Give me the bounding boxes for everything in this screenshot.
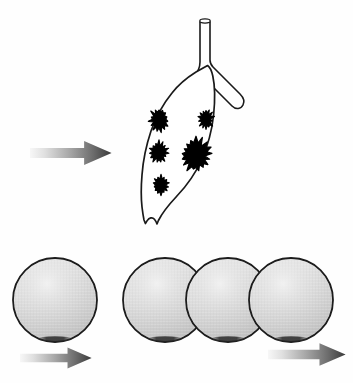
spheroid-single: [13, 258, 97, 342]
spheroid-chain-3-highlight: [250, 259, 332, 341]
spheroid-chain-3: [249, 258, 333, 342]
spheroid-shapes: [13, 258, 333, 342]
spheroid-chain-3-basal-shadow: [273, 336, 308, 341]
figure-root: Lung metastasis progression schematic: [0, 0, 353, 383]
spheroid-single-highlight: [14, 259, 96, 341]
spheroid-chain-2-basal-shadow: [210, 336, 245, 341]
figure-canvas: [0, 0, 353, 383]
spheroid-single-basal-shadow: [37, 336, 72, 341]
trachea-rim-icon: [200, 19, 210, 23]
spheroid-chain-1-basal-shadow: [147, 336, 182, 341]
